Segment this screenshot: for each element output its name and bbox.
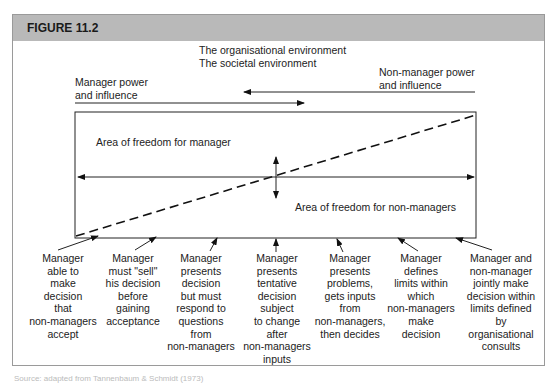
continuum-column-1: Managerable tomakedecisionthatnon-manage… [29, 252, 97, 340]
continuum-column-2: Managermust "sell"his decisionbeforegain… [104, 252, 162, 328]
manager-power-label-2: and influence [75, 89, 137, 102]
env-line-1: The organisational environment [199, 44, 346, 57]
figure-caption: Source: adapted from Tannenbaum & Schmid… [14, 374, 203, 383]
continuum-column-5: Managerpresentsproblems,gets inputsfromn… [314, 252, 386, 340]
manager-power-label-1: Manager power [75, 76, 148, 89]
env-line-2: The societal environment [199, 57, 316, 70]
area-nonmanager-label: Area of freedom for non-managers [295, 201, 456, 214]
continuum-column-3: Managerpresentsdecisionbut mustrespond t… [166, 252, 236, 353]
continuum-column-7: Manager andnon-managerjointly makedecisi… [459, 252, 543, 353]
nonmanager-power-label-2: and influence [379, 79, 441, 92]
continuum-column-4: Managerpresentstentativedecisionsubjectt… [242, 252, 312, 365]
area-manager-label: Area of freedom for manager [96, 136, 231, 149]
continuum-column-6: Managerdefineslimits withinwhichnon-mana… [387, 252, 455, 340]
nonmanager-power-label-1: Non-manager power [379, 66, 475, 79]
